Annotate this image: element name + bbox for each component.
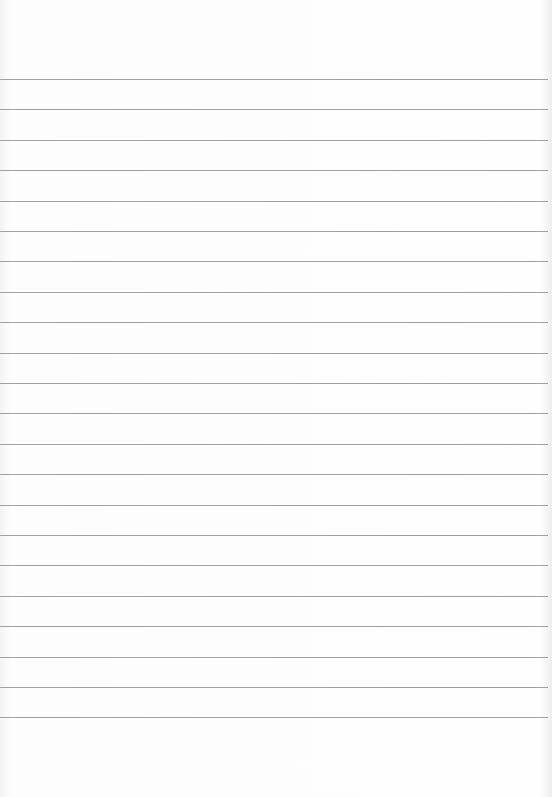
ruled-line	[0, 505, 548, 506]
ruled-line	[0, 565, 548, 566]
ruled-line	[0, 292, 548, 293]
ruled-line	[0, 261, 548, 262]
ruled-line	[0, 626, 548, 627]
ruled-line	[0, 717, 548, 718]
ruled-line	[0, 322, 548, 323]
ruled-paper-sheet	[0, 0, 552, 797]
ruled-line	[0, 657, 548, 658]
ruled-line	[0, 353, 548, 354]
ruled-line	[0, 413, 548, 414]
ruled-line	[0, 170, 548, 171]
ruled-line	[0, 201, 548, 202]
ruled-line	[0, 535, 548, 536]
ruled-line	[0, 596, 548, 597]
ruled-line	[0, 109, 548, 110]
ruled-line	[0, 474, 548, 475]
ruled-line	[0, 687, 548, 688]
ruled-line	[0, 444, 548, 445]
ruled-line	[0, 231, 548, 232]
ruled-line	[0, 383, 548, 384]
ruled-line	[0, 79, 548, 80]
ruled-line	[0, 140, 548, 141]
